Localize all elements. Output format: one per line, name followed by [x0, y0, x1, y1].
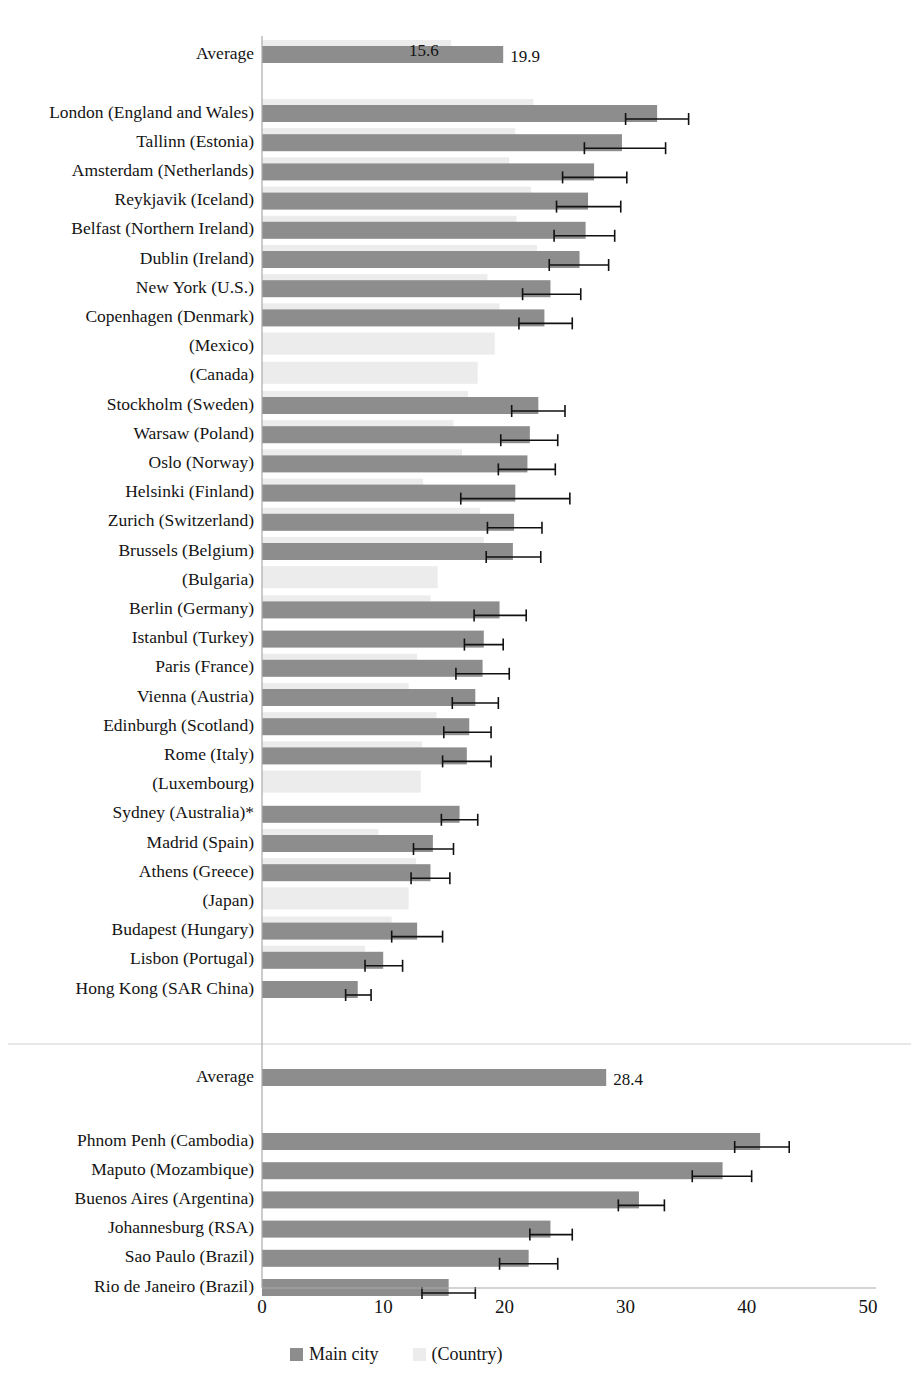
- category-label: Oslo (Norway): [149, 454, 254, 472]
- category-label: Copenhagen (Denmark): [85, 308, 254, 326]
- category-label: Tallinn (Estonia): [136, 133, 254, 151]
- main-city-bar: [262, 543, 513, 560]
- main-city-bar: [262, 1221, 550, 1238]
- main-city-bar: [262, 163, 594, 180]
- legend-item[interactable]: (Country): [413, 1344, 503, 1365]
- legend-label: (Country): [432, 1344, 503, 1365]
- x-tick-label: 30: [616, 1297, 635, 1316]
- category-label: Brussels (Belgium): [118, 542, 254, 560]
- x-tick-label: 50: [859, 1297, 878, 1316]
- category-label: Athens (Greece): [139, 863, 254, 881]
- main-city-bar: [262, 397, 538, 414]
- x-tick-label: 10: [374, 1297, 393, 1316]
- category-label: Helsinki (Finland): [125, 483, 254, 501]
- category-label: New York (U.S.): [136, 279, 254, 297]
- main-city-bar: [262, 601, 500, 618]
- category-label: Reykjavik (Iceland): [115, 191, 254, 209]
- category-label: Zurich (Switzerland): [108, 512, 254, 530]
- main-city-bar: [262, 660, 483, 677]
- country-bar: [262, 887, 409, 909]
- main-city-bar: [262, 105, 657, 122]
- category-label: Madrid (Spain): [147, 834, 254, 852]
- category-label: Vienna (Austria): [137, 688, 254, 706]
- main-city-bar: [262, 631, 484, 648]
- category-label: (Bulgaria): [182, 571, 254, 589]
- x-tick-label: 0: [257, 1297, 267, 1316]
- category-label: Rio de Janeiro (Brazil): [94, 1278, 254, 1296]
- category-label: Stockholm (Sweden): [107, 396, 254, 414]
- category-label: (Luxembourg): [152, 775, 254, 793]
- country-bar: [262, 566, 438, 588]
- category-label: (Mexico): [189, 337, 254, 355]
- main-city-bar: [262, 514, 514, 531]
- main-city-bar: [262, 455, 527, 472]
- category-label: Sydney (Australia)*: [113, 804, 254, 822]
- legend-swatch-main-city-icon: [290, 1348, 303, 1361]
- legend-label: Main city: [309, 1344, 379, 1365]
- chart-legend: Main city(Country): [290, 1344, 503, 1365]
- category-label: Buenos Aires (Argentina): [74, 1190, 254, 1208]
- category-label: Lisbon (Portugal): [130, 950, 254, 968]
- category-label: Maputo (Mozambique): [91, 1161, 254, 1179]
- x-tick-label: 40: [737, 1297, 756, 1316]
- country-bar: [262, 771, 421, 793]
- main-city-bar: [262, 193, 588, 210]
- category-label: Dublin (Ireland): [140, 250, 254, 268]
- main-city-bar: [262, 1133, 760, 1150]
- category-label: Paris (France): [155, 658, 254, 676]
- main-city-bar: [262, 864, 430, 881]
- average-main-city-bar: [262, 46, 503, 63]
- category-label: Warsaw (Poland): [133, 425, 254, 443]
- category-label: Istanbul (Turkey): [132, 629, 254, 647]
- category-label: (Japan): [202, 892, 254, 910]
- category-label: Average: [196, 1068, 254, 1086]
- bar-value-label: 28.4: [613, 1071, 643, 1088]
- category-label: Belfast (Northern Ireland): [71, 220, 254, 238]
- main-city-bar: [262, 981, 358, 998]
- main-city-bar: [262, 280, 550, 297]
- main-city-bar: [262, 1250, 529, 1267]
- category-label: Rome (Italy): [164, 746, 254, 764]
- bar-chart: AverageLondon (England and Wales)Tallinn…: [0, 0, 919, 1394]
- legend-swatch-country-icon: [413, 1348, 426, 1361]
- legend-item[interactable]: Main city: [290, 1344, 379, 1365]
- category-label: Johannesburg (RSA): [108, 1219, 254, 1237]
- category-label: Edinburgh (Scotland): [103, 717, 254, 735]
- main-city-bar: [262, 689, 475, 706]
- country-bar: [262, 362, 478, 384]
- category-label: Amsterdam (Netherlands): [72, 162, 254, 180]
- category-label: Budapest (Hungary): [112, 921, 254, 939]
- category-label: Berlin (Germany): [129, 600, 254, 618]
- average-main-city-bar: [262, 1069, 606, 1086]
- bar-value-label: 19.9: [510, 48, 540, 65]
- category-label: (Canada): [190, 366, 254, 384]
- category-label: Sao Paulo (Brazil): [125, 1248, 254, 1266]
- category-label: Hong Kong (SAR China): [76, 980, 254, 998]
- category-label: London (England and Wales): [49, 104, 254, 122]
- bar-value-label: 15.6: [409, 42, 439, 59]
- country-bar: [262, 333, 495, 355]
- main-city-bar: [262, 426, 530, 443]
- main-city-bar: [262, 718, 469, 735]
- category-label: Phnom Penh (Cambodia): [77, 1132, 254, 1150]
- main-city-bar: [262, 134, 622, 151]
- main-city-bar: [262, 222, 586, 239]
- main-city-bar: [262, 835, 433, 852]
- main-city-bar: [262, 747, 467, 764]
- main-city-bar: [262, 806, 460, 823]
- x-tick-label: 20: [495, 1297, 514, 1316]
- category-label: Average: [196, 45, 254, 63]
- main-city-bar: [262, 309, 544, 326]
- main-city-bar: [262, 1162, 723, 1179]
- main-city-bar: [262, 251, 580, 268]
- main-city-bar: [262, 1191, 639, 1208]
